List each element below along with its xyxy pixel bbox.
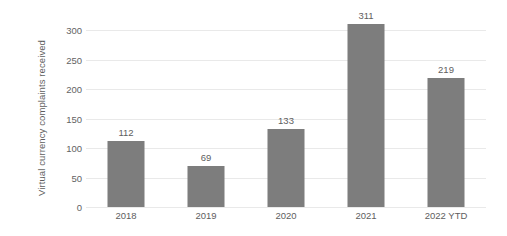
bar-value-label: 133 [278, 115, 294, 126]
bar[interactable] [188, 166, 225, 207]
x-axis-tick-label: 2021 [326, 210, 406, 221]
y-axis-tick-label: 250 [42, 54, 82, 65]
plot-area: 11269133311219 [86, 30, 486, 207]
bar[interactable] [348, 24, 385, 207]
x-axis-tick-label: 2018 [86, 210, 166, 221]
y-axis-tick-label: 0 [42, 202, 82, 213]
bar-chart: Virtual currency complaints received 050… [0, 0, 507, 236]
bar-group: 311 [326, 30, 406, 207]
y-axis-tick-label: 300 [42, 25, 82, 36]
bar[interactable] [108, 141, 145, 207]
y-axis-tick-label: 100 [42, 143, 82, 154]
bar-value-label: 69 [201, 152, 212, 163]
bar-group: 69 [166, 30, 246, 207]
y-axis-tick-labels: 050100150200250300 [40, 30, 82, 207]
x-axis-tick-labels: 20182019202020212022 YTD [86, 210, 486, 226]
bar[interactable] [268, 129, 305, 207]
x-axis-tick-label: 2022 YTD [406, 210, 486, 221]
x-axis-tick-label: 2019 [166, 210, 246, 221]
y-axis-tick-label: 50 [42, 172, 82, 183]
bar-value-label: 219 [438, 64, 454, 75]
bar-group: 112 [86, 30, 166, 207]
bar-group: 133 [246, 30, 326, 207]
x-axis-tick-label: 2020 [246, 210, 326, 221]
bar-group: 219 [406, 30, 486, 207]
bar[interactable] [428, 78, 465, 207]
y-axis-tick-label: 200 [42, 84, 82, 95]
bar-value-label: 311 [358, 10, 373, 21]
gridline [86, 207, 486, 208]
bar-value-label: 112 [118, 127, 133, 138]
y-axis-tick-label: 150 [42, 113, 82, 124]
